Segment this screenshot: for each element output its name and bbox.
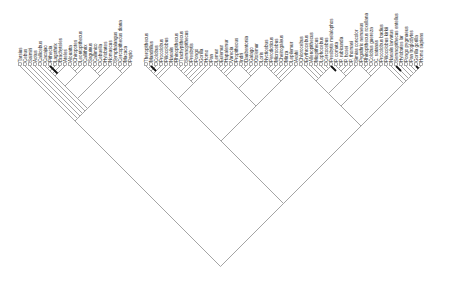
branch: [271, 66, 276, 71]
branch: [179, 84, 194, 99]
tip-marker: [300, 63, 303, 66]
branch: [221, 141, 284, 204]
tip-marker: [49, 63, 52, 66]
tree-tips: TarsiusCebusSaimiriAotusCallicebusCacaja…: [18, 13, 424, 66]
tip-marker: [345, 63, 348, 66]
tip-marker: [64, 63, 67, 66]
branch: [411, 74, 414, 77]
branch: [386, 66, 404, 84]
branch: [409, 76, 412, 79]
branch: [93, 69, 96, 72]
branch: [100, 66, 110, 76]
branch: [78, 76, 101, 99]
branch: [65, 74, 78, 87]
branch: [361, 66, 364, 69]
tip-marker: [84, 63, 87, 66]
branch: [78, 116, 81, 119]
tip-marker: [89, 63, 92, 66]
tip-marker: [290, 63, 293, 66]
branch: [321, 66, 326, 71]
branch: [346, 66, 356, 76]
branch: [115, 66, 118, 69]
branch: [406, 79, 409, 82]
branch: [246, 71, 249, 74]
branch: [321, 74, 324, 77]
branch: [326, 66, 329, 69]
branch: [324, 71, 327, 74]
tip-marker: [370, 63, 373, 66]
branch: [256, 81, 281, 106]
branch: [191, 81, 194, 84]
tip-marker: [395, 63, 398, 66]
branch: [329, 66, 332, 69]
tip-marker: [230, 63, 233, 66]
tip-marker: [175, 63, 178, 66]
branch: [219, 69, 222, 72]
tip-marker: [79, 63, 82, 66]
tip-marker: [155, 63, 158, 66]
branch: [401, 66, 411, 76]
branch: [284, 126, 362, 204]
tip-marker: [29, 63, 32, 66]
branch: [75, 119, 78, 122]
tip-marker: [24, 63, 27, 66]
branch: [85, 109, 88, 112]
branch: [339, 69, 342, 72]
branch: [341, 76, 371, 106]
tip-marker: [310, 63, 313, 66]
branch: [118, 69, 121, 72]
branch: [416, 66, 419, 69]
branch: [75, 71, 78, 74]
branch: [53, 74, 56, 77]
branch: [319, 76, 322, 79]
branch: [90, 66, 93, 69]
tip-marker: [270, 63, 273, 66]
branch: [371, 66, 381, 76]
branch: [366, 66, 371, 71]
branch: [35, 66, 83, 114]
branch: [146, 66, 149, 69]
branch: [80, 114, 83, 117]
tip-marker: [375, 63, 378, 66]
branch: [239, 76, 252, 89]
branch: [414, 71, 417, 74]
tip-marker: [235, 63, 238, 66]
branch: [149, 69, 152, 72]
tip-marker: [255, 63, 258, 66]
branch: [341, 106, 361, 126]
branch: [244, 69, 247, 72]
tip-marker: [160, 63, 163, 66]
branch: [55, 66, 65, 76]
branch: [45, 66, 48, 69]
tip-marker: [315, 63, 318, 66]
tip-marker: [34, 63, 37, 66]
branch: [326, 69, 329, 72]
branch: [341, 66, 346, 71]
branch: [366, 71, 369, 74]
tip-marker: [350, 63, 353, 66]
branch: [329, 76, 347, 94]
branch: [246, 66, 251, 71]
branch: [75, 66, 80, 71]
branch: [95, 71, 98, 74]
branch: [48, 66, 51, 69]
tip-marker: [205, 63, 208, 66]
branch: [194, 66, 212, 84]
tip-marker: [200, 63, 203, 66]
tip-marker: [420, 63, 423, 66]
branch: [159, 79, 179, 99]
tip-marker: [225, 63, 228, 66]
tip-marker: [145, 63, 148, 66]
branch: [216, 66, 219, 69]
tip-marker: [94, 63, 97, 66]
branch: [73, 66, 76, 69]
branch: [221, 66, 226, 71]
tip-marker: [119, 63, 122, 66]
branch: [224, 74, 227, 77]
branch: [78, 99, 88, 109]
branch: [331, 66, 336, 71]
tip-marker: [355, 63, 358, 66]
tip-marker: [260, 63, 263, 66]
branch: [98, 74, 101, 77]
tip-marker: [99, 63, 102, 66]
